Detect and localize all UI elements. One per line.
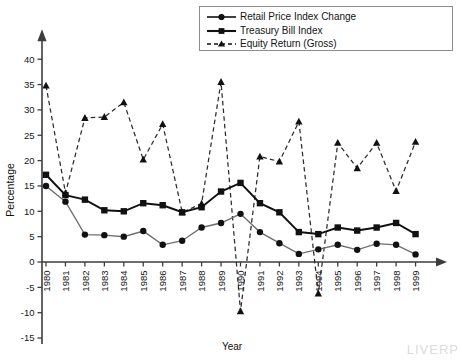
data-point [257,200,263,206]
data-point [140,228,146,234]
data-point [296,251,302,257]
data-point [295,118,302,125]
svg-text:1999: 1999 [410,271,421,292]
svg-text:15: 15 [24,180,35,191]
svg-text:10: 10 [24,206,35,217]
data-point [120,98,127,105]
data-point [217,78,224,85]
chart-container: -15-10-505101520253035401980198119821983… [0,0,462,361]
data-point [315,231,321,237]
data-point [82,231,88,237]
data-point [160,202,166,208]
data-point [237,211,243,217]
svg-text:1984: 1984 [118,271,129,292]
data-point [237,307,244,314]
data-point [121,233,127,239]
svg-text:1993: 1993 [293,271,304,292]
svg-text:1988: 1988 [196,271,207,292]
data-point [412,138,419,145]
data-point [159,120,166,127]
data-point [335,242,341,248]
data-point [276,240,282,246]
chart-legend: Retail Price Index Change Treasury Bill … [199,6,453,51]
x-axis-label: Year [222,341,243,352]
data-point [43,183,49,189]
data-point [179,238,185,244]
data-point [373,224,379,230]
data-point [256,153,263,160]
y-axis-label: Percentage [4,163,16,217]
svg-text:1992: 1992 [274,271,285,292]
legend-item[interactable]: Retail Price Index Change [206,11,447,24]
svg-text:20: 20 [24,155,35,166]
data-point [237,180,243,186]
svg-text:1983: 1983 [99,271,110,292]
data-point [373,241,379,247]
data-point [218,188,224,194]
legend-label-equity: Equity Return (Gross) [240,38,337,50]
svg-text:-5: -5 [26,282,34,293]
svg-text:1982: 1982 [80,271,91,292]
data-point [412,231,418,237]
data-point [140,156,147,163]
legend-label-rpi: Retail Price Index Change [240,11,356,23]
svg-text:5: 5 [29,231,34,242]
data-point [140,200,146,206]
data-point [43,172,49,178]
series-square [43,172,419,238]
svg-text:1980: 1980 [41,271,52,292]
data-point [354,164,361,171]
svg-text:1991: 1991 [255,271,266,292]
legend-item[interactable]: Equity Return (Gross) [206,38,447,51]
data-point [198,224,204,230]
data-point [392,187,399,194]
svg-text:30: 30 [24,104,35,115]
data-point [276,158,283,165]
data-point [121,208,127,214]
svg-text:0: 0 [29,256,34,267]
svg-text:25: 25 [24,130,35,141]
data-point [373,139,380,146]
svg-text:1989: 1989 [216,271,227,292]
svg-text:1996: 1996 [352,271,363,292]
data-point [393,242,399,248]
data-point [354,247,360,253]
data-point [198,204,204,210]
legend-symbol-triangle [206,38,237,50]
data-point [393,220,399,226]
legend-item[interactable]: Treasury Bill Index [206,24,447,37]
data-point [101,232,107,238]
svg-text:40: 40 [24,54,35,65]
data-point [218,220,224,226]
legend-label-treasury: Treasury Bill Index [240,25,322,37]
data-point [42,82,49,89]
data-point [335,224,341,230]
data-point [179,209,185,215]
data-point [296,229,302,235]
data-point [62,192,68,198]
svg-text:1986: 1986 [157,271,168,292]
data-point [82,196,88,202]
data-point [334,139,341,146]
data-point [62,198,68,204]
svg-text:1981: 1981 [60,271,71,292]
data-point [160,242,166,248]
data-point [257,229,263,235]
svg-text:1995: 1995 [332,271,343,292]
svg-text:-15: -15 [21,332,35,343]
data-point [412,251,418,257]
data-point [354,227,360,233]
data-point [276,209,282,215]
watermark: LIVERP [407,342,459,357]
data-point [315,246,321,252]
legend-symbol-circle [206,11,237,23]
svg-text:1998: 1998 [391,271,402,292]
svg-text:35: 35 [24,79,35,90]
legend-symbol-square [206,25,237,37]
svg-text:1985: 1985 [138,271,149,292]
chart-plot-area: -15-10-505101520253035401980198119821983… [0,0,462,361]
svg-text:1997: 1997 [371,271,382,292]
svg-text:1987: 1987 [177,271,188,292]
data-point [101,207,107,213]
svg-text:-10: -10 [21,307,35,318]
